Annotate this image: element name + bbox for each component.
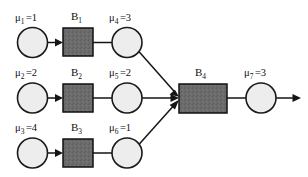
label-mu3-value: =4 [26, 122, 38, 133]
buffer-box-B2 [63, 84, 93, 112]
branch-row-2: μ2=2 B2 μ5=2 [15, 66, 179, 113]
buffer-box-B1 [63, 28, 93, 56]
label-B2-symbol: B [71, 66, 78, 78]
buffer-box-B4 [179, 84, 227, 113]
station-node-mu1 [18, 28, 48, 58]
label-mu1-value: =1 [26, 12, 37, 23]
edge-mu4-to-B4 [138, 51, 179, 97]
edge-mu6-to-B4 [138, 100, 179, 146]
label-mu2-value: =2 [26, 67, 37, 78]
label-B1-symbol: B [71, 10, 78, 22]
label-mu2: μ2=2 [15, 67, 37, 81]
station-node-mu3 [18, 138, 48, 168]
edge-mu7-to-exit [276, 94, 301, 102]
label-mu5-subscript: 5 [115, 72, 119, 81]
merge-output-section: B4 μ7=3 [179, 66, 301, 113]
label-mu3-subscript: 3 [21, 127, 25, 136]
label-mu6-value: =1 [120, 122, 131, 133]
label-mu4: μ4=3 [109, 12, 131, 26]
label-B1-subscript: 1 [78, 16, 82, 25]
label-mu5-value: =2 [120, 67, 131, 78]
label-mu5: μ5=2 [109, 67, 131, 81]
buffer-box-B3 [63, 139, 93, 167]
label-mu7: μ7=3 [244, 67, 266, 81]
station-node-mu5 [112, 83, 142, 113]
label-B1: B1 [71, 10, 82, 25]
label-mu4-subscript: 4 [115, 17, 119, 26]
station-node-mu7 [246, 83, 276, 113]
edge-mu1-to-B1 [48, 39, 63, 47]
label-mu7-subscript: 7 [250, 72, 254, 81]
label-mu1-subscript: 1 [21, 17, 25, 26]
label-mu1: μ1=1 [15, 12, 37, 26]
label-mu6: μ6=1 [109, 122, 131, 136]
label-B2-subscript: 2 [78, 72, 82, 81]
label-mu6-subscript: 6 [115, 127, 119, 136]
label-mu2-subscript: 2 [21, 72, 25, 81]
label-B3-symbol: B [71, 121, 78, 133]
label-B3-subscript: 3 [78, 127, 82, 136]
diagram-canvas: μ1=1 B1 μ4=3 [0, 0, 308, 177]
label-B2: B2 [71, 66, 82, 81]
label-B4-subscript: 4 [202, 72, 206, 81]
edge-mu3-to-B3 [48, 149, 63, 157]
branch-row-1: μ1=1 B1 μ4=3 [15, 10, 179, 97]
edge-mu2-to-B2 [48, 94, 63, 102]
queueing-network-diagram: μ1=1 B1 μ4=3 [0, 0, 308, 177]
label-mu4-value: =3 [120, 12, 131, 23]
label-B4-symbol: B [195, 66, 202, 78]
label-mu3: μ3=4 [15, 122, 38, 136]
label-B3: B3 [71, 121, 82, 136]
label-B4: B4 [195, 66, 206, 81]
station-node-mu2 [18, 83, 48, 113]
label-mu7-value: =3 [255, 67, 266, 78]
station-node-mu6 [112, 138, 142, 168]
station-node-mu4 [112, 28, 142, 58]
